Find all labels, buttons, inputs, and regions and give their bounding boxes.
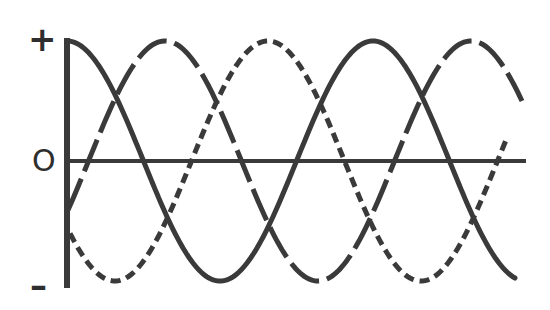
zero-label: O	[32, 146, 56, 176]
positive-label: +	[28, 22, 57, 56]
negative-label: –	[30, 268, 47, 302]
three-phase-waveform-diagram	[0, 0, 550, 310]
